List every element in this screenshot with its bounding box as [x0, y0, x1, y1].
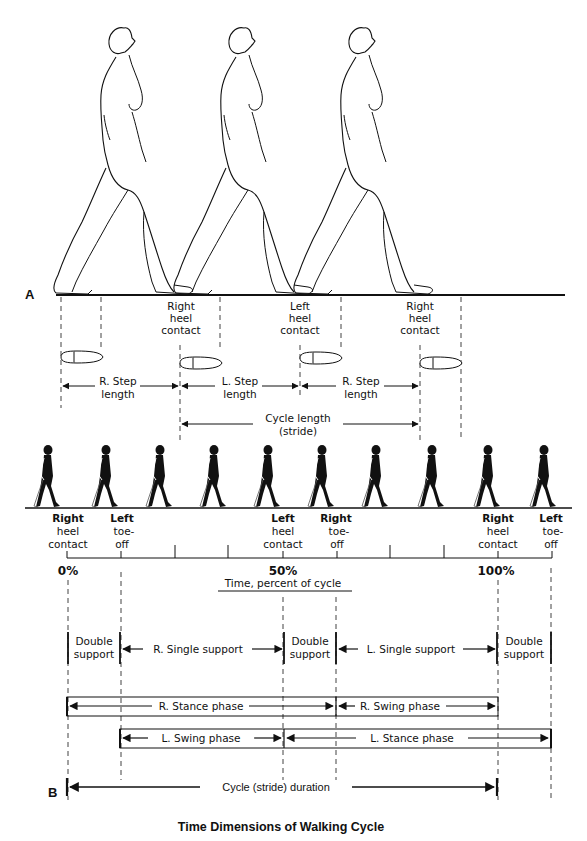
support-label: Double — [505, 635, 542, 647]
event-label: heel — [289, 312, 312, 324]
support-label: R. Single support — [153, 643, 243, 655]
event-label: contact — [48, 538, 87, 550]
event-label: Left — [539, 512, 562, 524]
event-label: Right — [52, 512, 84, 524]
event-label: Right — [167, 300, 195, 312]
walker-silhouette — [254, 445, 280, 507]
cycle-length-label: (stride) — [279, 425, 317, 437]
step-length-label: L. Step — [222, 375, 259, 387]
figure-caption: Time Dimensions of Walking Cycle — [178, 820, 384, 834]
event-label: Right — [320, 512, 352, 524]
step-length-label: length — [223, 388, 256, 400]
right-stance-phase-label: R. Stance phase — [159, 700, 244, 712]
cycle-length-label: Cycle length — [265, 412, 331, 424]
walker-silhouette — [474, 445, 500, 507]
step-length-label: R. Step — [99, 375, 137, 387]
support-label: L. Single support — [367, 643, 455, 655]
step-length-label: length — [344, 388, 377, 400]
cycle-duration-label: Cycle (stride) duration — [222, 781, 330, 793]
event-label: Right — [406, 300, 434, 312]
event-label: contact — [161, 324, 200, 336]
step-length-label: R. Step — [342, 375, 380, 387]
left-stance-phase-label: L. Stance phase — [370, 732, 454, 744]
event-label: heel — [272, 525, 295, 537]
event-label: heel — [170, 312, 193, 324]
panel-a-label: A — [25, 287, 35, 302]
walker-silhouette — [92, 445, 118, 507]
silhouettes-group — [34, 445, 556, 507]
event-label: Left — [271, 512, 294, 524]
event-label: heel — [57, 525, 80, 537]
support-label: support — [74, 648, 114, 660]
percent-label: 100% — [477, 564, 514, 578]
support-label: Double — [75, 635, 112, 647]
event-label: off — [115, 538, 129, 550]
event-label: toe- — [543, 525, 564, 537]
walker-silhouette — [362, 445, 388, 507]
support-label: support — [290, 648, 330, 660]
figures-group — [54, 28, 433, 294]
event-label: contact — [263, 538, 302, 550]
event-label: Left — [290, 300, 310, 312]
event-label: heel — [409, 312, 432, 324]
event-label: Right — [482, 512, 514, 524]
walker-silhouette — [530, 445, 556, 507]
footprint-icon — [420, 357, 462, 369]
event-label: toe- — [114, 525, 135, 537]
footprint-icon — [300, 352, 342, 364]
panel-b-guides — [68, 568, 551, 800]
footprint-icon — [180, 357, 222, 369]
event-label: toe- — [329, 525, 350, 537]
right-swing-phase-label: R. Swing phase — [360, 700, 440, 712]
support-labels: Double support R. Single support Double … — [74, 635, 544, 660]
event-label: heel — [487, 525, 510, 537]
event-label: off — [544, 538, 558, 550]
event-label: off — [330, 538, 344, 550]
walking-cycle-diagram: A Right heel contact Left heel contact R… — [0, 0, 587, 841]
event-label: contact — [400, 324, 439, 336]
walker-silhouette — [34, 445, 60, 507]
walking-figure-1 — [54, 28, 193, 294]
footprint-icon — [61, 351, 103, 363]
percent-label: 50% — [269, 564, 298, 578]
step-labels: R. Step length L. Step length R. Step le… — [99, 375, 380, 400]
panel-b-events: Right heel contact Left toe- off Left he… — [48, 512, 563, 550]
time-axis-label: Time, percent of cycle — [224, 577, 342, 589]
walker-silhouette — [146, 445, 172, 507]
support-label: support — [504, 648, 544, 660]
event-label: contact — [280, 324, 319, 336]
walker-silhouette — [418, 445, 444, 507]
event-label: contact — [478, 538, 517, 550]
support-label: Double — [291, 635, 328, 647]
walking-figure-3 — [294, 28, 433, 294]
step-length-label: length — [101, 388, 134, 400]
event-label: Left — [110, 512, 133, 524]
panel-b-label: B — [48, 785, 57, 800]
panel-a-guides — [61, 297, 461, 440]
percent-label: 0% — [58, 564, 78, 578]
left-swing-phase-label: L. Swing phase — [161, 732, 240, 744]
walker-silhouette — [308, 445, 334, 507]
panel-a-events: Right heel contact Left heel contact Rig… — [161, 300, 439, 336]
walking-figure-2 — [174, 28, 313, 294]
walker-silhouette — [200, 445, 226, 507]
